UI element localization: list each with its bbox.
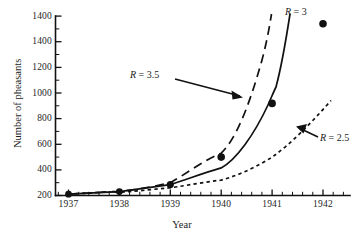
series-label-r35: R = 3.5 <box>130 69 159 80</box>
curve-r35 <box>69 14 272 194</box>
pheasant-population-chart: 200 400 600 800 1000 1200 1400 1400 1937… <box>0 0 364 241</box>
r-value-r3: 3 <box>302 6 307 17</box>
x-tick-label-1937: 1937 <box>47 199 91 209</box>
y-tick-label-800: 800 <box>20 113 52 123</box>
y-tick-label-1400: 1400 <box>20 36 52 46</box>
data-point-1940 <box>217 153 225 161</box>
r-equals-r3: = <box>291 6 302 17</box>
data-point-1942 <box>319 20 327 28</box>
x-axis-title: Year <box>0 219 364 230</box>
series-label-r25: R = 2.5 <box>320 132 349 143</box>
y-tick-label-1200: 1200 <box>20 62 52 72</box>
data-point-1939 <box>167 181 174 188</box>
curve-r3 <box>69 14 291 194</box>
y-tick-label-1000: 1000 <box>20 88 52 98</box>
x-tick-label-1938: 1938 <box>97 199 141 209</box>
y-axis-title: Number of pheasants <box>12 59 23 148</box>
x-tick-label-1940: 1940 <box>199 199 243 209</box>
y-tick-label-600: 600 <box>20 139 52 149</box>
y-tick-label-400: 400 <box>20 164 52 174</box>
data-point-1941 <box>268 100 276 108</box>
data-point-1938 <box>116 188 123 195</box>
r-value-r25: 2.5 <box>337 132 350 143</box>
x-tick-label-1939: 1939 <box>148 199 192 209</box>
data-point-1937 <box>65 191 72 198</box>
r-value-r35: 3.5 <box>147 69 160 80</box>
observed-data-points <box>65 20 327 198</box>
x-tick-label-1941: 1941 <box>250 199 294 209</box>
x-tick-label-1942: 1942 <box>301 199 345 209</box>
annotation-arrow-r35 <box>175 79 243 100</box>
r-equals-r25: = <box>326 132 337 143</box>
y-tick-label-top: 1400 <box>20 11 52 21</box>
curve-r25 <box>69 101 332 195</box>
series-label-r3: R = 3 <box>285 6 307 17</box>
r-equals-r35: = <box>136 69 147 80</box>
